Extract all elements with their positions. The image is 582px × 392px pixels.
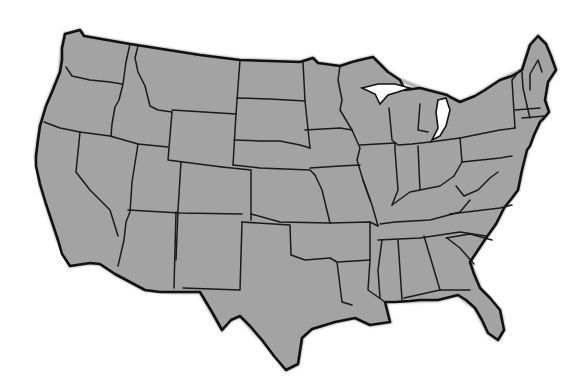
us-map bbox=[0, 0, 582, 392]
contiguous-us-landmass bbox=[36, 30, 556, 370]
us-map-svg bbox=[0, 0, 582, 392]
